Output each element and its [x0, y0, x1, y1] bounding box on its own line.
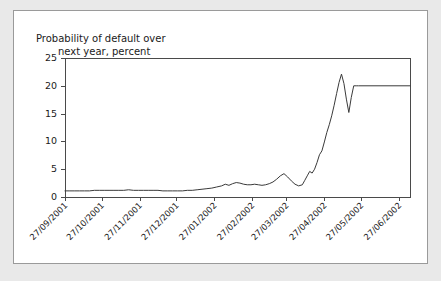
x-axis-ticks: 27/09/200127/10/200127/11/200127/12/2001… — [28, 197, 404, 242]
line-chart-svg: 0510152025 27/09/200127/10/200127/11/200… — [14, 11, 429, 265]
x-tick-label: 27/12/2001 — [139, 200, 181, 242]
x-tick-label: 27/05/2002 — [324, 200, 366, 242]
x-tick-label: 27/09/2001 — [28, 200, 70, 242]
chart-card: Probability of default over next year, p… — [13, 10, 428, 264]
plot-area: 0510152025 27/09/200127/10/200127/11/200… — [14, 11, 429, 265]
y-tick-label: 25 — [45, 52, 57, 63]
x-tick-label: 27/01/2002 — [177, 200, 219, 242]
y-axis-ticks: 0510152025 — [45, 52, 65, 202]
y-tick-label: 15 — [45, 108, 57, 119]
x-tick-label: 27/10/2001 — [64, 200, 106, 242]
screenshot-root: Probability of default over next year, p… — [0, 0, 441, 281]
y-tick-label: 20 — [45, 80, 57, 91]
x-tick-label: 27/04/2002 — [287, 200, 329, 242]
x-tick-label: 27/06/2002 — [362, 200, 404, 242]
x-tick-label: 27/11/2001 — [102, 200, 144, 242]
y-tick-label: 5 — [51, 163, 57, 174]
y-tick-label: 0 — [51, 191, 57, 202]
data-series-line — [65, 74, 410, 191]
y-tick-label: 10 — [45, 135, 57, 146]
